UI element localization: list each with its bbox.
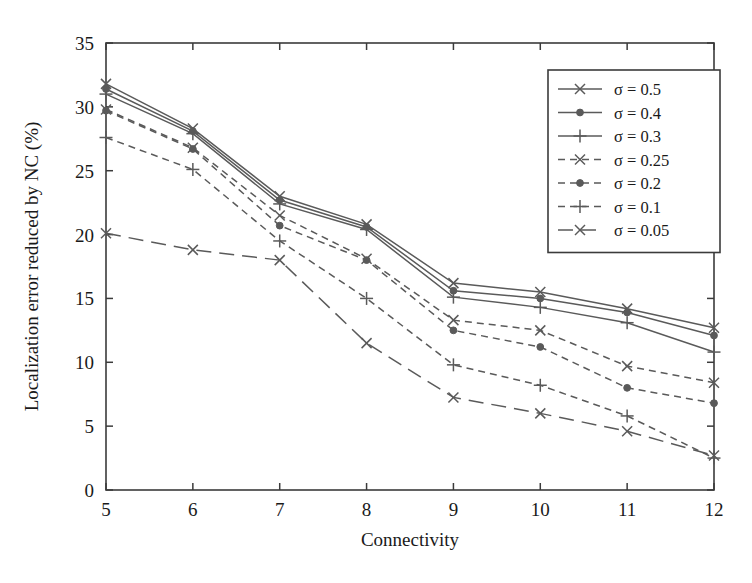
legend-label-1: σ = 0.4	[614, 104, 661, 123]
legend: σ = 0.5σ = 0.4σ = 0.3σ = 0.25σ = 0.2σ = …	[548, 70, 720, 253]
y-tick-label: 20	[75, 225, 94, 246]
x-tick-label: 8	[362, 499, 372, 520]
series-marker-1	[711, 332, 718, 339]
series-marker-4	[450, 327, 457, 334]
legend-sample-marker-4	[577, 180, 584, 187]
series-marker-4	[624, 384, 631, 391]
series-marker-4	[103, 107, 110, 114]
y-tick-label: 25	[75, 161, 94, 182]
x-tick-label: 6	[188, 499, 198, 520]
legend-label-6: σ = 0.05	[614, 221, 669, 240]
series-marker-1	[537, 295, 544, 302]
series-marker-4	[276, 222, 283, 229]
x-tick-label: 12	[705, 499, 724, 520]
legend-label-3: σ = 0.25	[614, 151, 669, 170]
legend-label-5: σ = 0.1	[614, 198, 661, 217]
series-marker-4	[189, 146, 196, 153]
series-line-6	[106, 233, 714, 455]
x-axis-title: Connectivity	[361, 529, 460, 550]
y-tick-label: 30	[75, 97, 94, 118]
x-tick-label: 5	[101, 499, 111, 520]
legend-label-4: σ = 0.2	[614, 174, 661, 193]
x-tick-label: 11	[618, 499, 636, 520]
legend-label-0: σ = 0.5	[614, 80, 661, 99]
series-marker-4	[537, 344, 544, 351]
series-marker-1	[624, 309, 631, 316]
series-marker-4	[711, 400, 718, 407]
y-tick-label: 15	[75, 288, 94, 309]
y-tick-label: 35	[75, 33, 94, 54]
x-tick-label: 9	[449, 499, 459, 520]
y-tick-label: 0	[85, 480, 95, 501]
y-tick-label: 5	[85, 416, 95, 437]
series-marker-4	[363, 257, 370, 264]
x-tick-label: 7	[275, 499, 285, 520]
x-tick-label: 10	[531, 499, 550, 520]
line-chart: 5678910111205101520253035ConnectivityLoc…	[0, 0, 752, 583]
y-axis-title: Localization error reduced by NC (%)	[21, 122, 43, 412]
legend-sample-marker-1	[577, 109, 584, 116]
legend-label-2: σ = 0.3	[614, 127, 661, 146]
figure-container: 5678910111205101520253035ConnectivityLoc…	[0, 0, 752, 583]
y-tick-label: 10	[75, 352, 94, 373]
